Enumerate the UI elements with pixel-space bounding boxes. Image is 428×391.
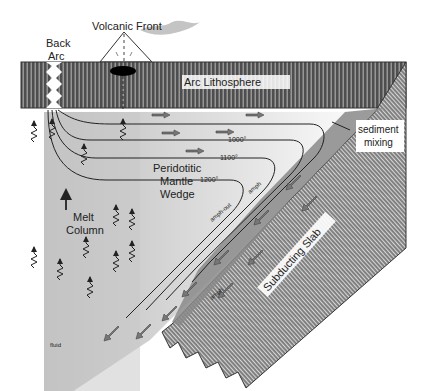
back-arc-label-2: Arc	[48, 50, 65, 62]
isotherm-1200-label: 1200°	[200, 176, 219, 183]
magma-chamber	[110, 66, 136, 76]
mantle-label-3: Wedge	[160, 188, 195, 200]
sediment-label-2: mixing	[364, 137, 393, 148]
fluid-label: fluid	[50, 342, 61, 348]
melt-column-label-1: Melt	[73, 211, 94, 223]
isotherm-1000-label: 1000°	[228, 136, 247, 143]
subduction-diagram: 1000° 1100° 1200° Volca	[0, 0, 428, 391]
isotherm-1100-label: 1100°	[220, 154, 238, 161]
arc-lithosphere-label: Arc Lithosphere	[184, 76, 261, 88]
melt-column-label-2: Column	[66, 224, 104, 236]
sediment-label-1: sediment	[358, 124, 399, 135]
back-arc-label-1: Back	[46, 37, 71, 49]
volcanic-front-label: Volcanic Front	[92, 20, 162, 32]
volcano	[100, 32, 152, 62]
mantle-label-1: Peridotitic	[153, 162, 202, 174]
mantle-label-2: Mantle	[160, 175, 193, 187]
